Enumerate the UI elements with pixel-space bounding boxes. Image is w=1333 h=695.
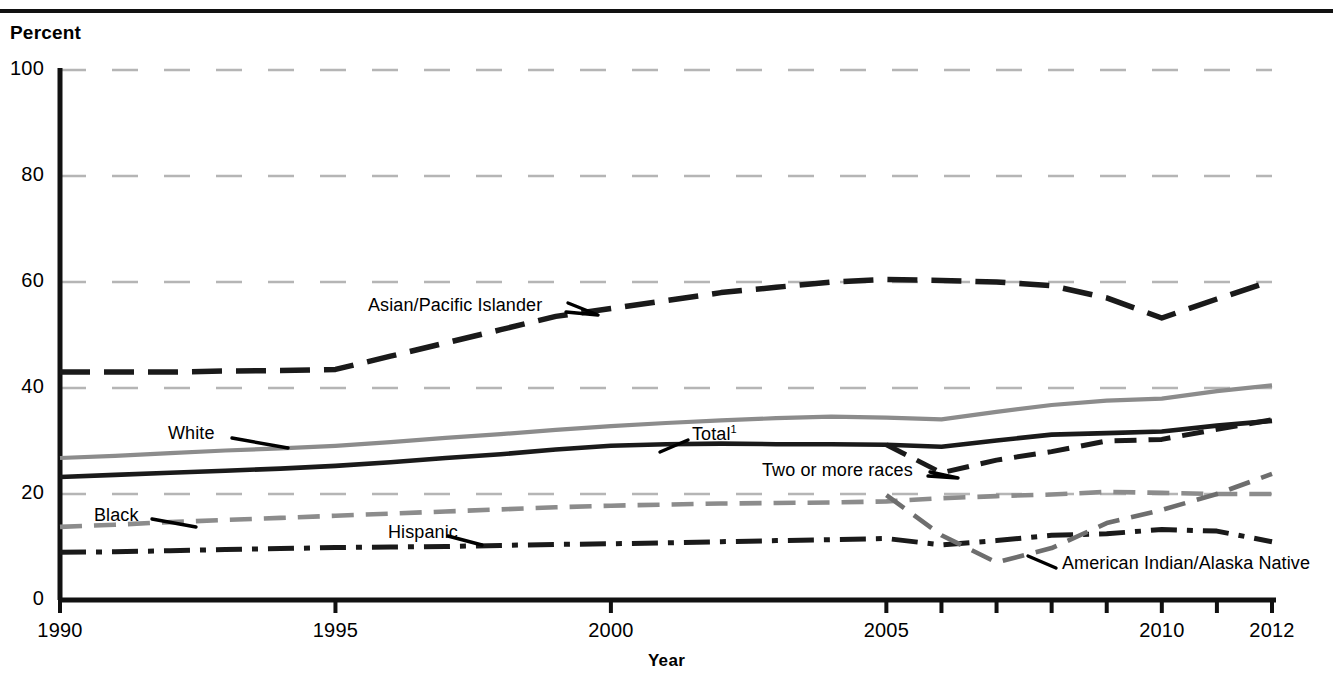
leader-white (232, 438, 288, 448)
series-label-hispanic: Hispanic (388, 522, 458, 543)
series-label-american-indian-alaska-native: American Indian/Alaska Native (1062, 553, 1310, 574)
y-tick-label-0: 0 (0, 587, 44, 610)
series-line-american-indian-alaska-native (886, 474, 1272, 563)
series-label-total-text: Total (692, 424, 731, 444)
series-label-total: Total1 (692, 423, 737, 445)
x-tick-label-2005: 2005 (841, 619, 931, 642)
series-label-two-or-more-races: Two or more races (762, 460, 913, 481)
leader-two-or-more-races (928, 472, 958, 478)
y-tick-label-60: 60 (0, 269, 44, 292)
x-tick-label-2012: 2012 (1227, 619, 1317, 642)
y-tick-label-40: 40 (0, 375, 44, 398)
y-tick-label-100: 100 (0, 57, 44, 80)
x-tick-label-1990: 1990 (15, 619, 105, 642)
line-chart-plot (0, 0, 1333, 695)
series-label-black: Black (94, 505, 139, 526)
x-tick-label-1995: 1995 (290, 619, 380, 642)
x-tick-label-2010: 2010 (1117, 619, 1207, 642)
leader-american-indian-alaska-native (1028, 556, 1056, 568)
series-line-white (60, 385, 1272, 458)
series-line-black (60, 492, 1272, 527)
label-leader-lines-group (152, 303, 1056, 568)
series-label-total-footnote-marker: 1 (731, 423, 737, 435)
y-tick-label-20: 20 (0, 481, 44, 504)
series-label-white: White (168, 423, 215, 444)
series-line-asian-pacific-islander (60, 279, 1272, 372)
gridlines-group (60, 70, 1272, 494)
series-label-asian-pacific-islander: Asian/Pacific Islander (368, 295, 542, 316)
data-series-group (60, 279, 1272, 562)
y-tick-label-80: 80 (0, 163, 44, 186)
chart-figure: Percent Year 0 20 40 60 80 100 1990 1995… (0, 0, 1333, 695)
series-line-hispanic (60, 530, 1272, 553)
x-tick-label-2000: 2000 (566, 619, 656, 642)
